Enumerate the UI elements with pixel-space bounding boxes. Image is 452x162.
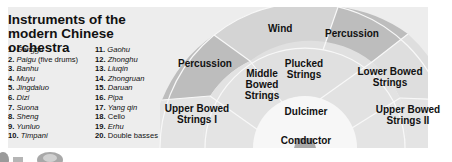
- label-wind: Wind: [268, 23, 292, 34]
- decorative-shapes: [0, 148, 80, 162]
- label-percussion-left: Percussion: [178, 58, 232, 69]
- label-plucked-strings: Plucked Strings: [280, 58, 328, 80]
- label-upper-bowed-strings-1: Upper Bowed Strings I: [158, 103, 236, 125]
- label-conductor: Conductor: [278, 135, 334, 146]
- label-dulcimer: Dulcimer: [282, 106, 330, 117]
- label-percussion-right: Percussion: [325, 28, 379, 39]
- label-upper-bowed-strings-2: Upper Bowed Strings II: [368, 104, 448, 126]
- label-lower-bowed-strings: Lower Bowed Strings: [350, 66, 430, 88]
